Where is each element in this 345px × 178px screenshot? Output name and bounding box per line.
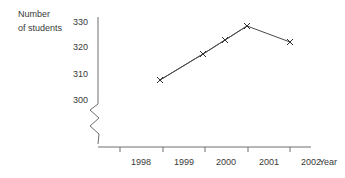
x-tick-label-2001: 2001 [259,157,279,167]
y-tick-label-300: 300 [73,95,88,105]
data-point-marker-2000 [222,37,228,43]
series-line-segment-a [160,26,290,80]
x-tick-label-1999: 1999 [174,157,194,167]
chart-page: Number of students 330 320 310 300 1998 … [0,0,345,178]
data-point-marker-1999 [200,51,206,57]
y-tick-label-330: 330 [73,17,88,27]
y-axis-title-line2: of students [18,23,63,33]
data-point-marker-2001 [244,23,250,29]
x-tick-label-2000: 2000 [216,157,236,167]
y-tick-label-320: 320 [73,42,88,52]
x-axis-title: Year [319,157,337,167]
series-line-segment-b [160,54,203,80]
data-point-marker-2002 [287,39,293,45]
data-point-marker-1998 [157,77,163,83]
y-tick-label-310: 310 [73,69,88,79]
y-axis-title-line1: Number [18,9,50,19]
line-chart: Number of students 330 320 310 300 1998 … [0,0,345,178]
x-tick-label-1998: 1998 [131,157,151,167]
y-axis-break-zigzag [90,104,99,144]
